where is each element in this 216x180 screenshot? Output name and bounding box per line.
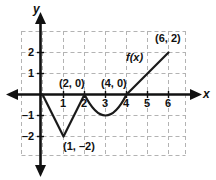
x-axis-arrow-right [190, 89, 202, 100]
coordinate-plane [0, 0, 216, 180]
y-axis-arrow-down [35, 165, 46, 177]
x-axis-label: x [203, 88, 210, 100]
point-label-6-2: (6, 2) [155, 33, 181, 44]
x-tick-label-5: 5 [144, 98, 150, 109]
x-tick-label-6: 6 [165, 98, 171, 109]
y-tick-label-1: 1 [28, 68, 34, 79]
x-tick-label-1: 1 [60, 98, 66, 109]
y-tick-label-2: 2 [28, 47, 34, 58]
x-axis-arrow-left [6, 89, 18, 100]
x-tick-label-4: 4 [123, 98, 129, 109]
function-label: f(x) [126, 52, 143, 63]
y-tick-label-neg1: –1 [22, 110, 34, 121]
point-label-2-0: (2, 0) [59, 78, 85, 89]
x-tick-label-2: 2 [81, 98, 87, 109]
point-label-1-neg2: (1, –2) [63, 141, 95, 152]
x-tick-label-3: 3 [102, 98, 108, 109]
point-label-4-0: (4, 0) [101, 78, 127, 89]
y-axis-label: y [33, 3, 40, 15]
y-tick-label-neg2: –2 [22, 131, 34, 142]
graph-figure: y x 1 2 3 4 5 6 2 1 –1 –2 (2, 0) (4, 0) … [0, 0, 216, 180]
